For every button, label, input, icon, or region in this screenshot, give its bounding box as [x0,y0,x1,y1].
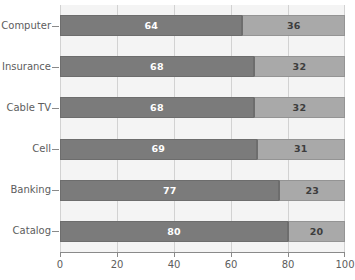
x-axis-tick-label: 40 [154,260,194,270]
y-axis-tick [52,149,59,150]
y-axis-label-cell: Cell [0,144,51,154]
x-axis-tick-label: 60 [211,260,251,270]
bar-value-label: 77 [163,186,177,196]
bar-value-label: 69 [152,144,166,154]
bar-value-label: 68 [150,62,164,72]
y-axis-label-insurance: Insurance [0,62,51,72]
y-axis-tick [52,26,59,27]
bar-segment-primary[interactable]: 64 [60,15,242,36]
bar-value-label: 31 [294,144,308,154]
x-axis-tick-label: 0 [40,260,80,270]
y-axis-tick [52,108,59,109]
bar-value-label: 80 [167,227,181,237]
bar-segment-secondary[interactable]: 20 [288,221,345,242]
bar-segment-primary[interactable]: 77 [60,180,279,201]
bar-segment-secondary[interactable]: 31 [257,139,345,160]
bar-segment-secondary[interactable]: 36 [242,15,345,36]
x-axis-tick-label: 100 [325,260,355,270]
bar-row: 6832 [60,97,345,118]
bar-row: 6832 [60,56,345,77]
x-axis-tick [174,252,175,257]
gridline [231,5,232,252]
plot-area: 643668326832693177238020 [60,5,345,252]
x-axis-tick [60,252,61,257]
stacked-bar-chart: 643668326832693177238020 ComputerInsuran… [0,0,355,280]
bar-segment-secondary[interactable]: 23 [279,180,345,201]
y-axis-label-cable-tv: Cable TV [0,103,51,113]
x-axis-line [60,252,345,253]
bar-segment-primary[interactable]: 80 [60,221,288,242]
x-axis-tick-label: 80 [268,260,308,270]
bar-segment-primary[interactable]: 68 [60,56,254,77]
bar-value-label: 32 [293,62,307,72]
gridline [288,5,289,252]
bar-row: 8020 [60,221,345,242]
bar-segment-secondary[interactable]: 32 [254,97,345,118]
x-axis-tick [117,252,118,257]
bar-value-label: 64 [144,21,158,31]
bar-value-label: 36 [287,21,301,31]
bar-segment-primary[interactable]: 69 [60,139,257,160]
bar-segment-secondary[interactable]: 32 [254,56,345,77]
bar-value-label: 32 [293,103,307,113]
x-axis-tick [344,252,345,257]
gridline [60,5,61,252]
bar-row: 6436 [60,15,345,36]
y-axis-tick [52,67,59,68]
gridline [174,5,175,252]
bar-value-label: 20 [310,227,324,237]
y-axis-tick [52,190,59,191]
x-axis-tick [288,252,289,257]
x-axis-tick-label: 20 [97,260,137,270]
gridline [117,5,118,252]
bar-value-label: 68 [150,103,164,113]
y-axis-label-computer: Computer [0,21,51,31]
y-axis-label-banking: Banking [0,185,51,195]
bar-row: 7723 [60,180,345,201]
x-axis-tick [231,252,232,257]
gridline [344,5,345,252]
bar-row: 6931 [60,139,345,160]
bar-value-label: 23 [305,186,319,196]
y-axis-label-catalog: Catalog [0,226,51,236]
y-axis-tick [52,231,59,232]
bar-segment-primary[interactable]: 68 [60,97,254,118]
